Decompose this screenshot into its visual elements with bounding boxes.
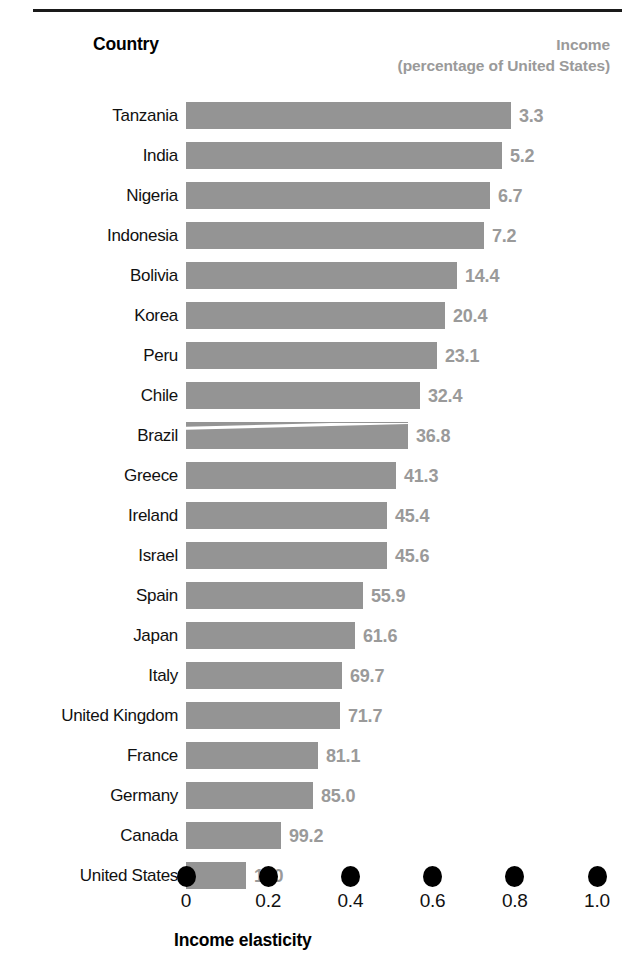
country-label: Korea [0, 296, 178, 336]
country-label: Italy [0, 656, 178, 696]
bar-value-label: 81.1 [326, 736, 360, 776]
country-label: Nigeria [0, 176, 178, 216]
country-label: Indonesia [0, 216, 178, 256]
table-row: Tanzania3.3 [0, 96, 638, 136]
bar-chart-plot-area: Tanzania3.3India5.2Nigeria6.7Indonesia7.… [0, 96, 638, 896]
bar-value-label: 99.2 [289, 816, 323, 856]
table-row: Indonesia7.2 [0, 216, 638, 256]
x-axis: 00.20.40.60.81.0 [0, 866, 638, 926]
country-label: United Kingdom [0, 696, 178, 736]
bar [186, 142, 502, 169]
country-label: Peru [0, 336, 178, 376]
table-row: Brazil36.8 [0, 416, 638, 456]
bar [186, 502, 387, 529]
country-column-header: Country [93, 34, 159, 55]
bar-value-label: 14.4 [465, 256, 499, 296]
axis-tick-dot [505, 866, 524, 887]
table-row: Israel45.6 [0, 536, 638, 576]
axis-tick-dot [341, 866, 360, 887]
table-row: Chile32.4 [0, 376, 638, 416]
table-row: Spain55.9 [0, 576, 638, 616]
income-column-header: Income (percentage of United States) [398, 34, 610, 76]
table-row: Peru23.1 [0, 336, 638, 376]
axis-tick-label: 0.8 [480, 890, 550, 912]
bar [186, 102, 511, 129]
top-horizontal-rule [33, 9, 622, 12]
bar-value-label: 5.2 [510, 136, 534, 176]
bar [186, 542, 387, 569]
country-label: Ireland [0, 496, 178, 536]
scan-line-artifact [186, 423, 408, 450]
bar-value-label: 20.4 [453, 296, 487, 336]
axis-tick-label: 0.2 [233, 890, 303, 912]
country-label: Japan [0, 616, 178, 656]
table-row: India5.2 [0, 136, 638, 176]
axis-tick-dot [259, 866, 278, 887]
bar [186, 342, 437, 369]
bar [186, 302, 445, 329]
table-row: France81.1 [0, 736, 638, 776]
bar-value-label: 23.1 [445, 336, 479, 376]
axis-tick-dot [588, 866, 607, 887]
bar-value-label: 6.7 [498, 176, 522, 216]
bar-value-label: 61.6 [363, 616, 397, 656]
table-row: Korea20.4 [0, 296, 638, 336]
country-label: Greece [0, 456, 178, 496]
bar [186, 262, 457, 289]
bar [186, 822, 281, 849]
axis-tick-label: 0 [151, 890, 221, 912]
country-label: France [0, 736, 178, 776]
table-row: Ireland45.4 [0, 496, 638, 536]
axis-tick-label: 1.0 [562, 890, 632, 912]
table-row: Japan61.6 [0, 616, 638, 656]
bar-value-label: 69.7 [350, 656, 384, 696]
country-label: Tanzania [0, 96, 178, 136]
country-label: Israel [0, 536, 178, 576]
bar-value-label: 85.0 [321, 776, 355, 816]
bar [186, 662, 342, 689]
country-label: Bolivia [0, 256, 178, 296]
x-axis-title: Income elasticity [174, 930, 312, 951]
bar [186, 182, 490, 209]
chart-header: Country Income (percentage of United Sta… [0, 34, 638, 90]
axis-tick-dot [177, 866, 196, 887]
bar [186, 782, 313, 809]
country-label: Chile [0, 376, 178, 416]
bar [186, 382, 420, 409]
bar [186, 742, 318, 769]
bar-value-label: 32.4 [428, 376, 462, 416]
country-label: Spain [0, 576, 178, 616]
bar [186, 222, 484, 249]
axis-tick-dot [423, 866, 442, 887]
country-label: Germany [0, 776, 178, 816]
bar [186, 462, 396, 489]
bar-value-label: 45.4 [395, 496, 429, 536]
country-label: Canada [0, 816, 178, 856]
bar-value-label: 55.9 [371, 576, 405, 616]
income-header-title: Income [398, 34, 610, 55]
table-row: Greece41.3 [0, 456, 638, 496]
table-row: United Kingdom71.7 [0, 696, 638, 736]
bar-value-label: 45.6 [395, 536, 429, 576]
table-row: Italy69.7 [0, 656, 638, 696]
table-row: Bolivia14.4 [0, 256, 638, 296]
table-row: Nigeria6.7 [0, 176, 638, 216]
bar-value-label: 36.8 [416, 416, 450, 456]
bar-value-label: 71.7 [348, 696, 382, 736]
axis-tick-label: 0.4 [315, 890, 385, 912]
table-row: Germany85.0 [0, 776, 638, 816]
bar-value-label: 3.3 [519, 96, 543, 136]
bar [186, 622, 355, 649]
country-label: India [0, 136, 178, 176]
bar [186, 702, 340, 729]
bar [186, 422, 408, 449]
bar-value-label: 7.2 [492, 216, 516, 256]
table-row: Canada99.2 [0, 816, 638, 856]
bar [186, 582, 363, 609]
income-header-subtitle: (percentage of United States) [398, 55, 610, 76]
country-label: Brazil [0, 416, 178, 456]
bar-value-label: 41.3 [404, 456, 438, 496]
axis-tick-label: 0.6 [398, 890, 468, 912]
